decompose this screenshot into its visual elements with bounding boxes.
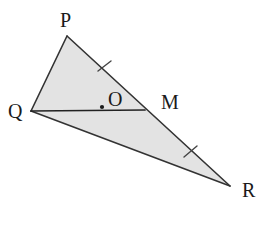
segment-qm: [31, 110, 145, 111]
geometry-figure: P Q R M O: [0, 0, 278, 227]
vertex-label-q: Q: [8, 101, 22, 121]
geometry-canvas: [0, 0, 278, 227]
point-o-dot: [100, 105, 104, 109]
point-label-o: O: [108, 89, 122, 109]
vertex-label-r: R: [242, 180, 255, 200]
vertex-label-p: P: [60, 10, 71, 30]
point-label-m: M: [161, 92, 179, 112]
